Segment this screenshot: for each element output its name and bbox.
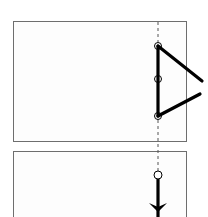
- hanging-joint-icon: [154, 171, 162, 179]
- upper-diagonal-link: [158, 46, 202, 81]
- diagram-canvas: [0, 0, 208, 217]
- lower-diagonal-link: [158, 94, 200, 116]
